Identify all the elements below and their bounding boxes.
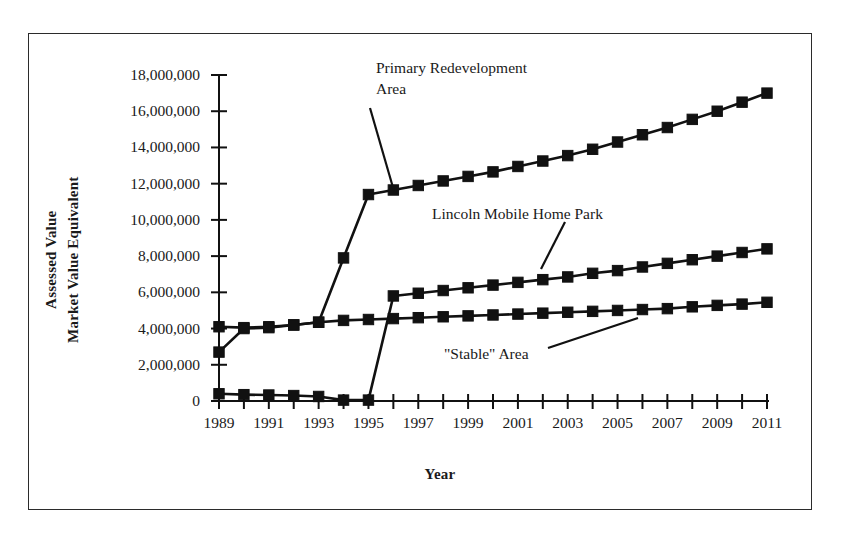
data-point-marker (413, 288, 423, 298)
data-point-marker (538, 274, 548, 284)
data-point-marker (637, 304, 647, 314)
data-point-marker (488, 280, 498, 290)
y-axis-tick-label: 14,000,000 (72, 138, 200, 156)
data-point-marker (488, 167, 498, 177)
data-point-marker (363, 314, 373, 324)
data-point-marker (289, 320, 299, 330)
data-point-marker (413, 180, 423, 190)
data-point-marker (538, 156, 548, 166)
data-point-marker (239, 322, 249, 332)
data-point-marker (612, 265, 622, 275)
data-point-marker (587, 268, 597, 278)
data-point-marker (388, 313, 398, 323)
y-axis-tick-label: 16,000,000 (72, 102, 200, 120)
data-point-marker (513, 277, 523, 287)
data-point-marker (338, 395, 348, 405)
y-axis-tick-label: 2,000,000 (72, 356, 200, 374)
data-point-marker (338, 253, 348, 263)
data-point-marker (463, 283, 473, 293)
data-point-marker (637, 130, 647, 140)
annotation-primary-line1: Primary Redevelopment (376, 58, 527, 79)
leader-line-lincoln (541, 222, 565, 269)
y-axis-tick-label: 0 (72, 392, 200, 410)
annotation-primary-redevelopment-area: Primary Redevelopment Area (376, 58, 527, 100)
data-point-marker (687, 114, 697, 124)
data-point-marker (463, 311, 473, 321)
data-point-marker (637, 262, 647, 272)
data-point-marker (438, 176, 448, 186)
data-point-marker (214, 347, 224, 357)
data-point-marker (737, 97, 747, 107)
data-point-marker (264, 390, 274, 400)
data-point-marker (563, 272, 573, 282)
data-point-marker (513, 161, 523, 171)
data-point-marker (264, 322, 274, 332)
data-point-marker (712, 251, 722, 261)
data-point-marker (214, 389, 224, 399)
data-point-marker (363, 395, 373, 405)
data-point-marker (587, 306, 597, 316)
data-point-marker (338, 315, 348, 325)
data-point-marker (737, 247, 747, 257)
data-point-marker (612, 305, 622, 315)
data-point-marker (488, 310, 498, 320)
data-point-marker (313, 317, 323, 327)
y-axis-tick-label: 10,000,000 (72, 211, 200, 229)
y-axis-title-line1: Assessed Value (41, 145, 63, 375)
x-axis-tick-label: 2011 (737, 414, 797, 432)
data-point-marker (313, 391, 323, 401)
y-axis-tick-label: 6,000,000 (72, 283, 200, 301)
data-point-marker (513, 309, 523, 319)
data-point-marker (662, 122, 672, 132)
data-point-marker (737, 299, 747, 309)
data-point-marker (687, 255, 697, 265)
data-point-marker (563, 307, 573, 317)
data-point-marker (289, 390, 299, 400)
data-point-marker (612, 137, 622, 147)
y-axis-tick-label: 12,000,000 (72, 175, 200, 193)
data-point-marker (662, 258, 672, 268)
y-axis-tick-label: 4,000,000 (72, 320, 200, 338)
data-point-marker (563, 150, 573, 160)
leader-line-primary (370, 108, 394, 191)
y-axis-tick-label: 8,000,000 (72, 247, 200, 265)
annotation-primary-line2: Area (376, 79, 527, 100)
annotation-stable-area: "Stable" Area (444, 344, 529, 365)
data-point-marker (687, 302, 697, 312)
data-point-marker (587, 144, 597, 154)
series-2 (214, 297, 772, 333)
annotation-lincoln-mobile-home-park: Lincoln Mobile Home Park (432, 204, 603, 225)
data-point-marker (438, 285, 448, 295)
data-point-marker (214, 322, 224, 332)
data-point-marker (239, 389, 249, 399)
data-point-marker (712, 300, 722, 310)
data-point-marker (463, 171, 473, 181)
data-point-marker (762, 244, 772, 254)
x-axis-title: Year (380, 466, 500, 483)
data-point-marker (438, 312, 448, 322)
data-point-marker (388, 291, 398, 301)
leader-line-stable (548, 318, 638, 348)
data-point-marker (538, 308, 548, 318)
data-point-marker (662, 303, 672, 313)
data-point-marker (762, 297, 772, 307)
y-axis-tick-label: 18,000,000 (72, 66, 200, 84)
data-point-marker (363, 189, 373, 199)
data-point-marker (413, 312, 423, 322)
data-point-marker (712, 106, 722, 116)
data-point-marker (762, 88, 772, 98)
